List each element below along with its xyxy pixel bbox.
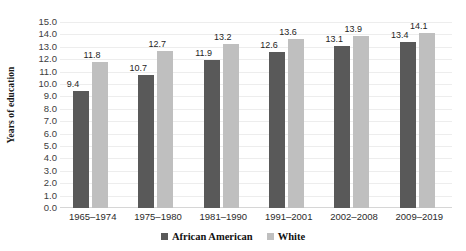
y-axis-tick-labels: 15.014.013.012.011.010.09.08.07.06.05.04… bbox=[20, 22, 57, 208]
y-axis-tick-label: 11.0 bbox=[20, 67, 57, 77]
y-axis-tick-label: 13.0 bbox=[20, 42, 57, 52]
y-axis-title-text: Years of education bbox=[6, 67, 16, 144]
legend-swatch-icon bbox=[161, 233, 168, 240]
bar[interactable] bbox=[73, 91, 89, 208]
bar[interactable] bbox=[419, 33, 435, 208]
y-axis-tick-label: 5.0 bbox=[20, 141, 57, 151]
bar-value-label: 12.6 bbox=[252, 41, 286, 50]
bar-value-label: 11.8 bbox=[75, 51, 109, 60]
plot-area: 9.411.810.712.711.913.212.613.613.113.91… bbox=[60, 22, 452, 208]
y-axis-tick-label: 15.0 bbox=[20, 17, 57, 27]
bar-value-label: 13.1 bbox=[317, 35, 351, 44]
bar-value-label: 13.9 bbox=[336, 25, 370, 34]
y-axis-tick-label: 1.0 bbox=[20, 191, 57, 201]
x-axis-category-label: 2009–2019 bbox=[380, 211, 458, 222]
legend-swatch-icon bbox=[267, 233, 274, 240]
bar[interactable] bbox=[138, 75, 154, 208]
bar-value-label: 10.7 bbox=[121, 64, 155, 73]
bar[interactable] bbox=[353, 36, 369, 208]
bar[interactable] bbox=[400, 42, 416, 208]
y-axis-tick-label: 14.0 bbox=[20, 30, 57, 40]
bar-value-label: 13.4 bbox=[383, 31, 417, 40]
y-axis-tick-label: 7.0 bbox=[20, 116, 57, 126]
bar-value-label: 12.7 bbox=[140, 40, 174, 49]
bar-group: 12.613.6 bbox=[256, 22, 321, 208]
y-axis-tick-label: 4.0 bbox=[20, 154, 57, 164]
chart-legend: African AmericanWhite bbox=[0, 231, 466, 242]
bar[interactable] bbox=[92, 62, 108, 208]
y-axis-tick-label: 3.0 bbox=[20, 166, 57, 176]
y-axis-tick-label: 9.0 bbox=[20, 92, 57, 102]
y-axis-tick-label: 10.0 bbox=[20, 79, 57, 89]
bar-value-label: 13.2 bbox=[206, 33, 240, 42]
bar[interactable] bbox=[223, 44, 239, 208]
bar-value-label: 13.6 bbox=[271, 28, 305, 37]
y-axis-tick-label: 12.0 bbox=[20, 54, 57, 64]
bar[interactable] bbox=[334, 46, 350, 208]
bar-value-label: 11.9 bbox=[187, 49, 221, 58]
bar-group: 9.411.8 bbox=[60, 22, 125, 208]
bar-group: 10.712.7 bbox=[125, 22, 190, 208]
bar[interactable] bbox=[204, 60, 220, 208]
bar-group: 13.414.1 bbox=[387, 22, 452, 208]
bar-value-label: 9.4 bbox=[56, 80, 90, 89]
legend-label: White bbox=[278, 231, 305, 242]
bar-value-label: 14.1 bbox=[402, 22, 436, 31]
bar-group: 13.113.9 bbox=[321, 22, 386, 208]
legend-label: African American bbox=[172, 231, 253, 242]
y-axis-title: Years of education bbox=[2, 0, 20, 210]
bar-chart: Years of education 15.014.013.012.011.01… bbox=[0, 0, 466, 251]
bar[interactable] bbox=[157, 51, 173, 208]
y-axis-tick-label: 8.0 bbox=[20, 104, 57, 114]
bar-group: 11.913.2 bbox=[191, 22, 256, 208]
y-axis-tick-label: 0.0 bbox=[20, 203, 57, 213]
bar[interactable] bbox=[288, 39, 304, 208]
x-axis-category-labels: 1965–19741975–19801981–19901991–20012002… bbox=[60, 211, 452, 227]
bar[interactable] bbox=[269, 52, 285, 208]
y-axis-tick-label: 6.0 bbox=[20, 129, 57, 139]
legend-item[interactable]: White bbox=[267, 231, 305, 242]
y-axis-tick-label: 2.0 bbox=[20, 178, 57, 188]
legend-item[interactable]: African American bbox=[161, 231, 253, 242]
